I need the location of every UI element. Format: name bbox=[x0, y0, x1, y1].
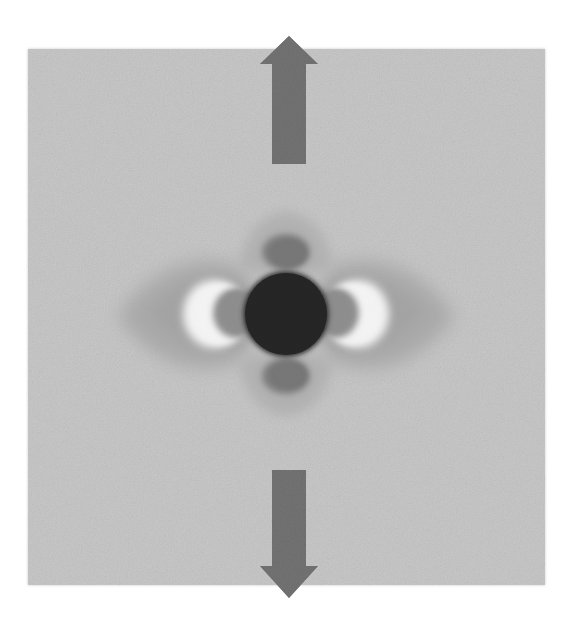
field-visualization-svg bbox=[0, 0, 565, 632]
figure-root bbox=[0, 0, 565, 632]
